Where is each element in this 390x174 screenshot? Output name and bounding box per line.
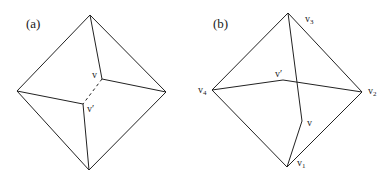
panel-b-edge-v4-vprime [212, 80, 283, 90]
panel-b-label-vprime: v′ [275, 68, 282, 79]
panel-a-edge-v-right [102, 79, 166, 92]
panel-b-label-v3: v3 [305, 13, 314, 26]
panel-a-outline [17, 15, 166, 170]
panel-a-label-v: v [92, 69, 97, 80]
panel-b-edge-v3-v [288, 13, 302, 121]
panel-a-label-vprime: v′ [87, 103, 94, 114]
panel-b-edge-vprime-v2 [283, 80, 362, 92]
panel-b-outline [212, 13, 362, 167]
panel-a-label: (a) [26, 16, 40, 31]
panel-b-label-v1: v1 [297, 157, 306, 170]
panel-a-dashed-edge-v-vprime [83, 79, 102, 104]
panel-b: (b) v3 v4 v2 v1 v v′ [198, 13, 377, 170]
panel-b-label-v2: v2 [368, 85, 377, 98]
octahedron-diagram: (a) v v′ (b) v3 v4 v2 v1 v v′ [0, 0, 390, 174]
panel-b-label-v: v [307, 117, 312, 128]
panel-b-label-v4: v4 [198, 84, 207, 97]
panel-b-label: (b) [213, 16, 228, 31]
panel-a: (a) v v′ [17, 15, 166, 170]
